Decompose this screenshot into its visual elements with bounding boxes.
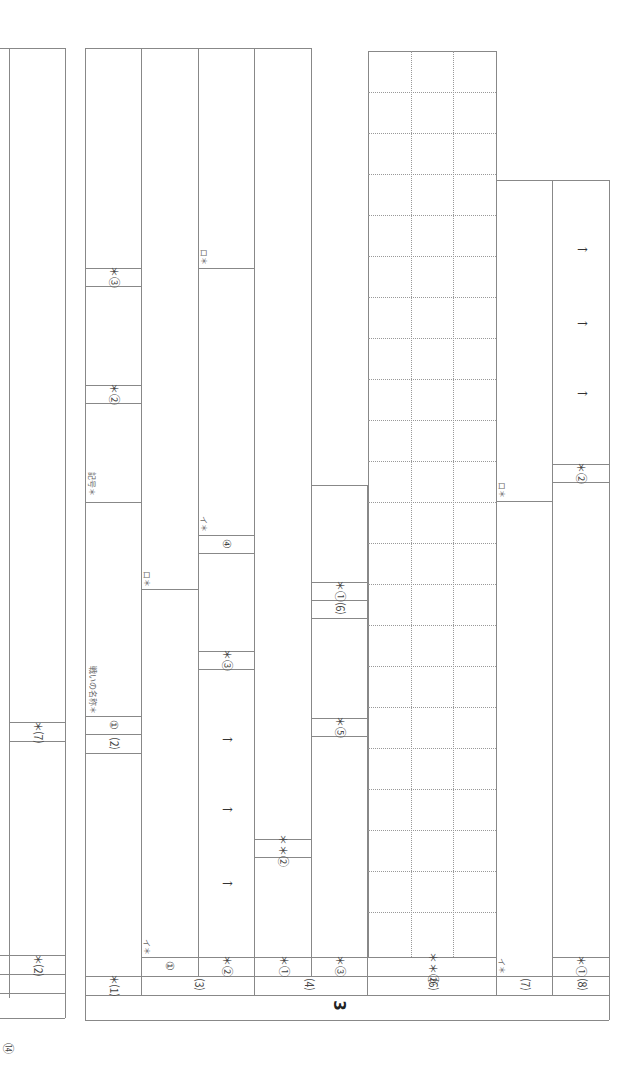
q3-2-label: ＊② [221,953,232,979]
q3-i-label: イ＊ [142,937,150,957]
q3-2-part-3: ＊③ [221,647,232,673]
q4-label: ⑷ [303,973,314,997]
page-marker: ⑭ [2,1042,13,1056]
q6-label-small: ⑹ [334,598,345,620]
q8-label: ⑻ [576,973,587,997]
q1-label: ＊⑴ [108,972,119,998]
q7-i-label: イ＊ [497,956,505,976]
arrow-icon: → [577,317,588,330]
left-label-2: ＊⑵ [32,953,43,977]
arrow-icon: → [222,803,233,816]
q1-part-3: ＊③ [108,264,119,290]
q1-symbol-label: 記号＊ [87,469,95,499]
q3-part-1: ① [164,955,175,977]
q5-label: ＊⑤ [334,714,345,740]
arrow-icon: → [577,243,588,256]
writing-grid[interactable] [368,51,497,958]
q3-2-part-4: ④ [221,533,232,555]
q3-ro-label: ロ＊ [142,569,150,589]
q3-2-i-label: イ＊ [199,514,207,534]
q2-label: ⑵ [108,733,119,755]
q1-battle-name-label: 戦いの名称＊ [88,666,96,714]
arrow-icon: → [222,877,233,890]
q7-ro-label: ロ＊ [497,480,505,500]
q8-part-2: ＊② [575,460,586,486]
q4-part-1: ＊① [278,953,289,979]
q3-2-ro-label: ロ＊ [199,247,207,267]
arrow-icon: → [577,387,588,400]
q7-label: ⑺ [519,973,530,997]
arrow-icon: → [222,733,233,746]
q6-label: ⑹ [427,973,438,997]
q4-part-3: ＊③ [334,953,345,979]
q3-label: ⑶ [193,973,204,997]
q4-part-2: ＊＊② [277,834,288,862]
section-number: 3 [333,998,344,1014]
q1-part-2: ＊② [108,381,119,407]
left-label-7: ＊⑺ [32,720,43,744]
